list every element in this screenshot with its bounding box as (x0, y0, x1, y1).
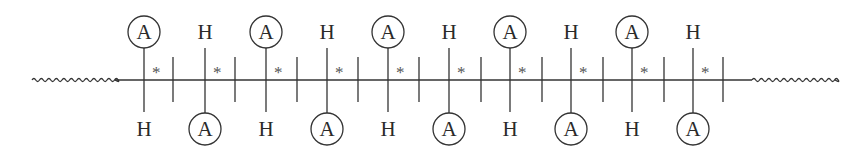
hydrogen-label: H (563, 20, 578, 44)
hydrogen-label: H (258, 117, 273, 141)
atom-label: A (136, 20, 152, 44)
chiral-center-asterisk-icon: * (396, 63, 405, 82)
stereocenter-6: HA* (433, 20, 466, 145)
hydrogen-label: H (319, 20, 334, 44)
atom-label: H (136, 117, 151, 141)
substituent-a-circled: A (494, 16, 526, 48)
atom-label: A (685, 117, 701, 141)
atom-label: H (258, 117, 273, 141)
atom-label: A (380, 20, 396, 44)
atom-label: A (563, 117, 579, 141)
chiral-center-asterisk-icon: * (274, 63, 283, 82)
chiral-center-asterisk-icon: * (335, 63, 344, 82)
stereocenter-3: AH* (250, 16, 283, 141)
stereocenter-1: AH* (128, 16, 161, 141)
atom-label: H (319, 20, 334, 44)
atom-label: H (441, 20, 456, 44)
stereocenter-10: HA* (677, 20, 710, 145)
atom-label: A (502, 20, 518, 44)
atom-label: A (441, 117, 457, 141)
atom-label: H (563, 20, 578, 44)
hydrogen-label: H (441, 20, 456, 44)
chiral-center-asterisk-icon: * (213, 63, 222, 82)
substituent-a-circled: A (616, 16, 648, 48)
stereocenter-9: AH* (616, 16, 649, 141)
chiral-center-asterisk-icon: * (518, 63, 527, 82)
chiral-center-asterisk-icon: * (640, 63, 649, 82)
atom-label: A (258, 20, 274, 44)
stereocenter-5: AH* (372, 16, 405, 141)
hydrogen-label: H (197, 20, 212, 44)
stereocenter-7: AH* (494, 16, 527, 141)
substituent-a-circled: A (189, 113, 221, 145)
stereocenter-4: HA* (311, 20, 344, 145)
chiral-center-asterisk-icon: * (152, 63, 161, 82)
substituent-a-circled: A (372, 16, 404, 48)
polymer-chain-diagram: AH*HA*AH*HA*AH*HA*AH*HA*AH*HA* (0, 0, 860, 156)
hydrogen-label: H (380, 117, 395, 141)
hydrogen-label: H (624, 117, 639, 141)
atom-label: H (685, 20, 700, 44)
stereocenter-2: HA* (189, 20, 222, 145)
polymer-chain-svg: AH*HA*AH*HA*AH*HA*AH*HA*AH*HA* (0, 0, 860, 156)
chiral-center-asterisk-icon: * (457, 63, 466, 82)
atom-label: H (624, 117, 639, 141)
substituent-a-circled: A (311, 113, 343, 145)
chiral-center-asterisk-icon: * (579, 63, 588, 82)
atom-label: A (319, 117, 335, 141)
stereocenter-8: HA* (555, 20, 588, 145)
right-wavy-bond (752, 79, 839, 82)
substituent-a-circled: A (555, 113, 587, 145)
hydrogen-label: H (136, 117, 151, 141)
hydrogen-label: H (502, 117, 517, 141)
atom-label: H (502, 117, 517, 141)
atom-label: A (624, 20, 640, 44)
substituent-a-circled: A (128, 16, 160, 48)
substituent-a-circled: A (677, 113, 709, 145)
atom-label: H (380, 117, 395, 141)
substituent-a-circled: A (433, 113, 465, 145)
substituent-a-circled: A (250, 16, 282, 48)
atom-label: H (197, 20, 212, 44)
chiral-center-asterisk-icon: * (701, 63, 710, 82)
left-wavy-bond (32, 79, 119, 82)
hydrogen-label: H (685, 20, 700, 44)
atom-label: A (197, 117, 213, 141)
